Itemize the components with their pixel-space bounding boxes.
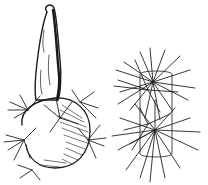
cactus-drawing xyxy=(0,0,208,185)
cactus-base xyxy=(4,90,106,180)
cactus-stem xyxy=(35,5,61,100)
spine-cluster-detail xyxy=(112,48,200,182)
illustration xyxy=(0,0,208,185)
